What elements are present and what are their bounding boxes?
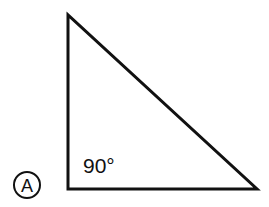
angle-label: 90° [83, 154, 115, 177]
diagram-canvas: 90° A [0, 0, 269, 207]
option-label: A [21, 176, 33, 196]
